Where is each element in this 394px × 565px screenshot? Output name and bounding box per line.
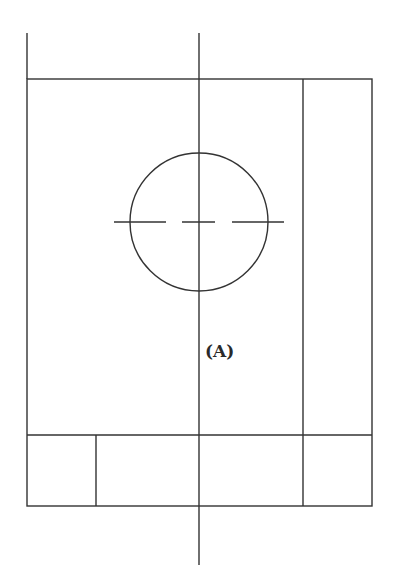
drawing-canvas (0, 0, 394, 565)
view-label: (A) (205, 343, 234, 360)
